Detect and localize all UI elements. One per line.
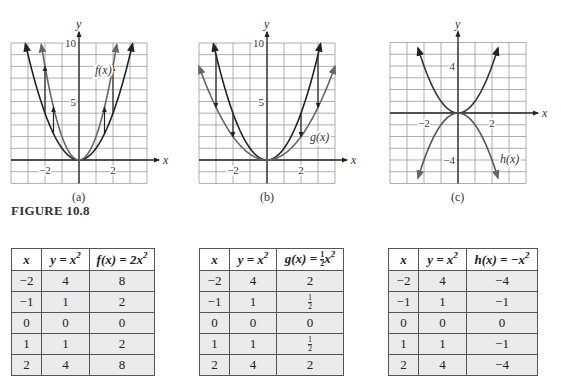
x-axis-label: x: [541, 106, 548, 120]
table-cell: 0: [230, 313, 277, 334]
y-tick-label: 10: [253, 37, 265, 49]
table-cell: 1: [42, 292, 90, 313]
table-row: −242: [200, 271, 344, 292]
table-cell: 0: [12, 313, 42, 334]
graph-b: xy−22510g(x): [199, 17, 357, 183]
table-cell: 1: [389, 334, 419, 355]
table-header-row: x y = x2 h(x) = −x2: [389, 249, 538, 271]
header-x: x: [12, 249, 42, 271]
table-cell: −1: [12, 292, 42, 313]
table-cell: 4: [230, 355, 277, 376]
table-cell: 4: [419, 355, 467, 376]
y-tick-label: −4: [443, 154, 455, 166]
table-cell: 0: [389, 313, 419, 334]
table-cell: −1: [200, 292, 230, 313]
table-cell: 12: [277, 334, 344, 355]
table-cell: 4: [42, 355, 90, 376]
table-cell: 0: [277, 313, 344, 334]
x-tick-label: 2: [298, 164, 304, 176]
table-row: 000: [200, 313, 344, 334]
header-x: x: [200, 249, 230, 271]
table-cell: −2: [389, 271, 419, 292]
table-row: −248: [12, 271, 155, 292]
table-cell: 0: [42, 313, 90, 334]
table-row: 24−4: [389, 355, 538, 376]
table-row: 112: [12, 334, 155, 355]
y-tick-label: 10: [65, 37, 77, 49]
y-axis-label: y: [75, 17, 82, 31]
figure-label: FIGURE 10.8: [11, 203, 90, 219]
table-row: 11−1: [389, 334, 538, 355]
table-cell: 8: [90, 355, 155, 376]
table-cell: 2: [90, 292, 155, 313]
graph-c: xy−224−4h(x): [390, 17, 548, 184]
curve-label: h(x): [500, 152, 519, 166]
table-cell: 1: [419, 292, 467, 313]
y-axis-label: y: [263, 17, 270, 31]
x-tick-label: −2: [39, 164, 51, 176]
header-h: h(x) = −x2: [467, 249, 538, 271]
x-axis-label: x: [350, 153, 357, 167]
header-y: y = x2: [230, 249, 277, 271]
table-cell: 4: [42, 271, 90, 292]
table-cell: 12: [277, 292, 344, 313]
header-x: x: [389, 249, 419, 271]
x-axis-label: x: [162, 153, 169, 167]
table-cell: −1: [467, 334, 538, 355]
table-cell: 1: [12, 334, 42, 355]
header-y: y = x2: [42, 249, 90, 271]
x-tick-label: 2: [110, 164, 116, 176]
table-cell: 2: [200, 355, 230, 376]
x-tick-label: −2: [227, 164, 239, 176]
graph-a: xy−22510f(x): [11, 17, 169, 183]
header-f: f(x) = 2x2: [90, 249, 155, 271]
table-row: −112: [12, 292, 155, 313]
table-b: x y = x2 g(x) = 12x2 −242−11120001112242: [199, 248, 344, 376]
y-tick-label: 5: [259, 96, 265, 108]
table-row: −24−4: [389, 271, 538, 292]
table-row: −1112: [200, 292, 344, 313]
caption-c: (c): [451, 190, 464, 205]
table-cell: −2: [12, 271, 42, 292]
table-cell: 0: [467, 313, 538, 334]
table-cell: 1: [230, 334, 277, 355]
table-cell: 1: [200, 334, 230, 355]
header-y: y = x2: [419, 249, 467, 271]
table-row: 1112: [200, 334, 344, 355]
table-cell: −2: [200, 271, 230, 292]
y-tick-label: 4: [450, 60, 456, 72]
table-cell: 2: [277, 271, 344, 292]
x-tick-label: 2: [489, 117, 495, 129]
table-cell: 0: [200, 313, 230, 334]
x-tick-label: −2: [418, 117, 430, 129]
table-cell: 2: [389, 355, 419, 376]
curve-label: g(x): [310, 130, 329, 144]
table-a: x y = x2 f(x) = 2x2 −248−112000112248: [11, 248, 155, 376]
table-cell: 4: [230, 271, 277, 292]
table-row: 242: [200, 355, 344, 376]
table-c: x y = x2 h(x) = −x2 −24−4−11−100011−124−…: [388, 248, 538, 376]
caption-b: (b): [260, 190, 274, 205]
table-row: 000: [12, 313, 155, 334]
table-cell: 2: [12, 355, 42, 376]
table-cell: −1: [389, 292, 419, 313]
table-cell: −1: [467, 292, 538, 313]
table-header-row: x y = x2 g(x) = 12x2: [200, 249, 344, 271]
table-cell: 0: [90, 313, 155, 334]
table-cell: 1: [42, 334, 90, 355]
y-tick-label: 5: [71, 96, 77, 108]
header-g: g(x) = 12x2: [277, 249, 344, 271]
table-cell: 4: [419, 271, 467, 292]
table-cell: 8: [90, 271, 155, 292]
table-cell: −4: [467, 271, 538, 292]
table-cell: 1: [230, 292, 277, 313]
table-row: 248: [12, 355, 155, 376]
table-row: −11−1: [389, 292, 538, 313]
table-cell: 0: [419, 313, 467, 334]
curve-label: f(x): [95, 63, 112, 77]
table-cell: −4: [467, 355, 538, 376]
table-header-row: x y = x2 f(x) = 2x2: [12, 249, 155, 271]
table-row: 000: [389, 313, 538, 334]
table-cell: 1: [419, 334, 467, 355]
table-cell: 2: [277, 355, 344, 376]
